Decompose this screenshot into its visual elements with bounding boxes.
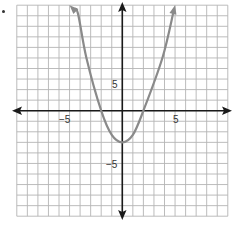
- x-tick-label-neg5: −5: [59, 114, 71, 125]
- tick-labels: −5 5 5 −5: [59, 79, 179, 170]
- parabola-path: [74, 9, 174, 143]
- y-tick-label-pos5: 5: [112, 79, 118, 90]
- axes: [12, 2, 232, 220]
- coordinate-graph: −5 5 5 −5: [0, 0, 236, 227]
- y-tick-label-neg5: −5: [106, 159, 118, 170]
- x-tick-label-pos5: 5: [173, 114, 179, 125]
